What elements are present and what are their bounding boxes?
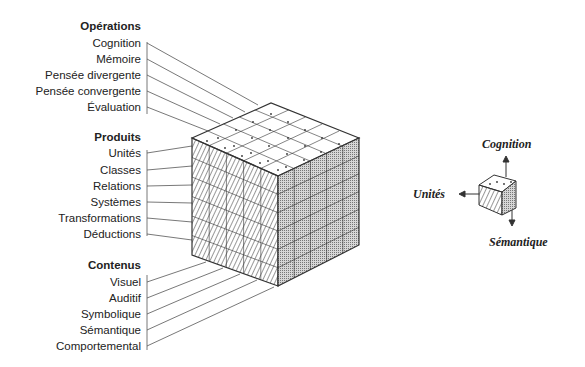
label-semantique: Sémantique (80, 322, 141, 338)
label-pensee-convergente: Pensée convergente (36, 83, 142, 99)
legend-label-unites: Unités (413, 187, 445, 202)
label-classes: Classes (100, 162, 141, 178)
legend-label-cognition: Cognition (482, 137, 531, 152)
label-systemes: Systèmes (91, 194, 142, 210)
group-title-produits: Produits (94, 129, 141, 145)
cube-large (192, 103, 359, 286)
label-memoire: Mémoire (96, 51, 141, 67)
label-pensee-divergente: Pensée divergente (45, 67, 141, 83)
label-transformations: Transformations (58, 210, 141, 226)
label-deductions: Déductions (83, 226, 141, 242)
bracket-produits (147, 146, 192, 240)
arrow-down-icon (509, 220, 515, 226)
group-title-contenus: Contenus (88, 257, 141, 273)
label-symbolique: Symbolique (81, 306, 141, 322)
arrow-left-icon (459, 191, 465, 197)
label-cognition: Cognition (92, 35, 141, 51)
cube-small (479, 175, 516, 215)
label-evaluation: Évaluation (87, 99, 141, 115)
label-visuel: Visuel (110, 274, 141, 290)
label-relations: Relations (93, 178, 141, 194)
arrow-up-icon (503, 156, 509, 162)
legend-label-semantique: Sémantique (489, 235, 548, 250)
label-comportemental: Comportemental (56, 338, 141, 354)
group-title-operations: Opérations (80, 18, 141, 34)
label-unites: Unités (108, 145, 141, 161)
label-auditif: Auditif (109, 290, 141, 306)
